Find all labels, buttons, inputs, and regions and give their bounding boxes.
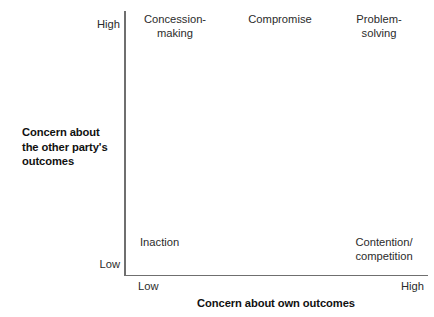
quadrant-label-concession-making: Concession- making (133, 13, 217, 40)
quadrant-label-inaction: Inaction (140, 236, 179, 250)
quadrant-label-problem-solving: Problem- solving (344, 13, 414, 40)
x-axis-title: Concern about own outcomes (124, 297, 428, 311)
x-axis-line (124, 275, 428, 277)
y-axis-tick-high: High (60, 18, 120, 32)
dual-concern-model-diagram: High Low Low High Concern about the othe… (0, 0, 434, 317)
y-axis-tick-low: Low (60, 258, 120, 272)
y-axis-title: Concern about the other party's outcomes (22, 125, 127, 169)
quadrant-label-compromise: Compromise (235, 13, 325, 27)
x-axis-tick-low: Low (138, 280, 159, 294)
x-axis-tick-high: High (358, 280, 424, 294)
quadrant-label-contention-competition: Contention/ competition (341, 236, 427, 263)
